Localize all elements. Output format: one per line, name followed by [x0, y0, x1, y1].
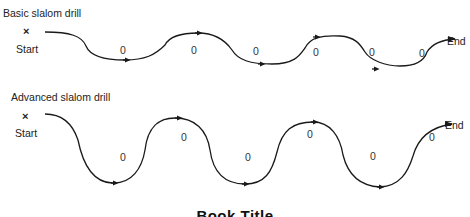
book-title-caption: Book Title	[0, 207, 470, 217]
advanced-slalom-path	[45, 114, 452, 187]
slalom-paths	[0, 0, 470, 217]
basic-slalom-path	[45, 32, 455, 69]
